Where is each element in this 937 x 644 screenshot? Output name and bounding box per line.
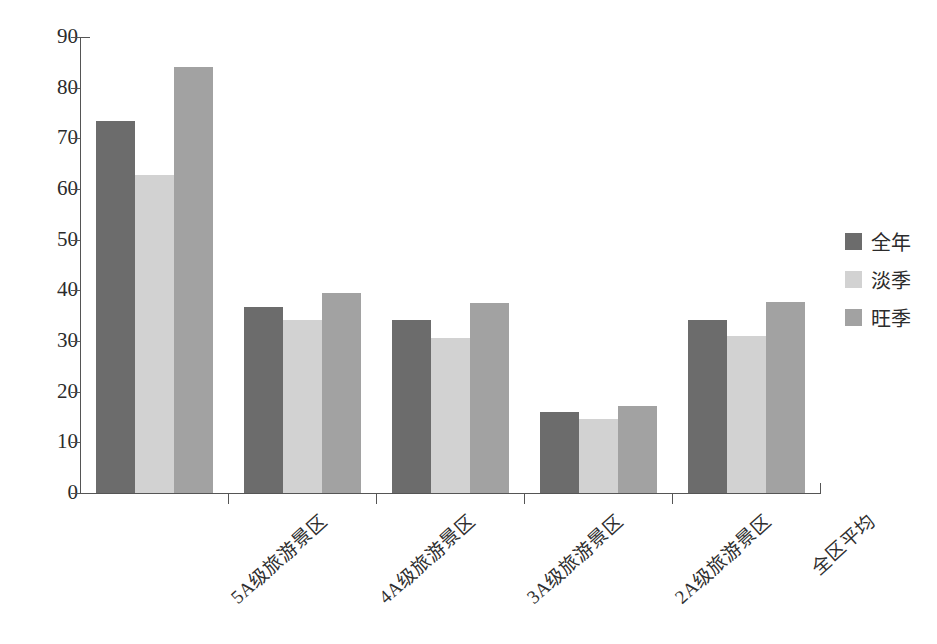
y-tick-mark <box>71 392 80 393</box>
y-tick-mark <box>71 290 80 291</box>
bar <box>174 67 213 493</box>
x-tick-label: 5A级旅游景区 <box>223 507 332 609</box>
bar <box>431 338 470 493</box>
legend-label: 全年 <box>871 227 911 256</box>
x-tick-mark <box>672 494 673 504</box>
bar <box>283 320 322 493</box>
y-tick-mark <box>71 341 80 342</box>
legend-label: 淡季 <box>871 265 911 294</box>
y-tick-mark <box>71 88 80 89</box>
x-tick-label: 3A级旅游景区 <box>519 507 628 609</box>
bar <box>470 303 509 494</box>
bar <box>135 175 174 493</box>
y-tick-mark <box>71 189 80 190</box>
y-tick-mark <box>71 442 80 443</box>
x-tick-mark <box>228 494 229 504</box>
bar <box>244 307 283 493</box>
legend-swatch-icon <box>845 271 862 288</box>
y-tick-mark <box>71 138 80 139</box>
y-axis-line <box>80 37 81 494</box>
x-axis-line <box>80 493 821 494</box>
x-tick-label: 4A级旅游景区 <box>371 507 480 609</box>
x-tick-label: 全区平均 <box>804 507 880 579</box>
bar <box>766 302 805 493</box>
legend-item[interactable]: 全年 <box>845 222 911 260</box>
x-tick-mark <box>376 494 377 504</box>
x-tick-mark <box>524 494 525 504</box>
y-tick-mark <box>71 37 80 38</box>
bar-chart: 平均门票价格（元/景区） 0102030405060708090 5A级旅游景区… <box>0 0 937 644</box>
legend-swatch-icon <box>845 309 862 326</box>
bar <box>540 412 579 493</box>
legend: 全年淡季旺季 <box>845 222 911 336</box>
legend-label: 旺季 <box>871 303 911 332</box>
bar <box>322 293 361 493</box>
y-axis-top-cap <box>80 37 90 38</box>
bar <box>727 336 766 493</box>
y-tick-mark <box>71 493 80 494</box>
bar <box>392 320 431 493</box>
x-tick-label: 2A级旅游景区 <box>667 507 776 609</box>
legend-swatch-icon <box>845 233 862 250</box>
y-tick-mark <box>71 240 80 241</box>
plot-area <box>80 37 820 493</box>
bar <box>618 406 657 493</box>
bar <box>579 419 618 493</box>
legend-item[interactable]: 淡季 <box>845 260 911 298</box>
y-axis-tick-labels: 0102030405060708090 <box>18 0 78 644</box>
bar <box>688 320 727 493</box>
bar <box>96 121 135 493</box>
x-axis-right-cap <box>820 483 821 494</box>
legend-item[interactable]: 旺季 <box>845 298 911 336</box>
